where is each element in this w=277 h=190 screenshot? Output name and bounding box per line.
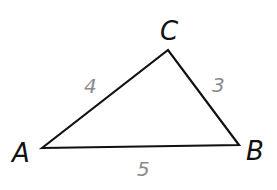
side-label-ac: 4 [84,74,97,98]
triangle-diagram: C A B 4 3 5 [0,0,277,190]
triangle-abc [42,50,239,148]
vertex-label-b: B [246,136,264,166]
vertex-label-c: C [160,16,179,46]
side-label-ab: 5 [137,157,150,181]
vertex-label-a: A [10,138,30,168]
side-label-cb: 3 [212,73,225,97]
